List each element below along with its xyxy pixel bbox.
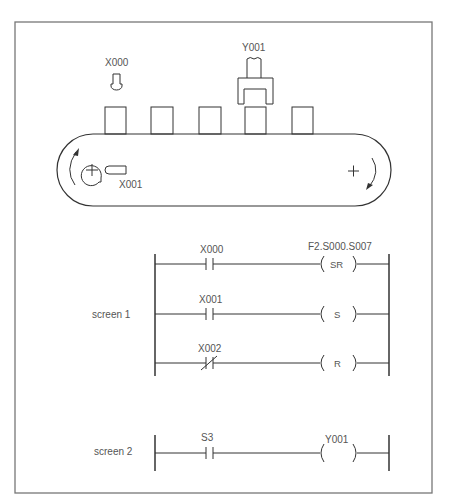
- sensor-x001-icon: [105, 166, 126, 174]
- rotation-arrow-left-icon: [70, 148, 79, 185]
- diagram-canvas: X000 Y001 X001 screen 1 X000: [0, 0, 449, 504]
- screen2-label: screen 2: [94, 446, 133, 457]
- rung1-coil-label: SR: [330, 259, 343, 270]
- right-roller-icon: [348, 166, 359, 177]
- coil-icon: [321, 355, 324, 371]
- rung1-contact-label: X000: [200, 244, 224, 255]
- conveyor-belt: [57, 134, 391, 206]
- rung-2: [155, 306, 389, 322]
- rung2-contact-label: X001: [199, 294, 223, 305]
- box: [151, 107, 173, 134]
- coil-icon: [321, 256, 324, 272]
- rung3-coil-label: R: [334, 358, 341, 369]
- coil-icon: [321, 306, 324, 322]
- screen2-contact-label: S3: [201, 432, 214, 443]
- box: [292, 107, 313, 134]
- box: [105, 107, 126, 134]
- sensor-x000-label: X000: [105, 57, 129, 68]
- rotation-arrow-right-icon: [366, 158, 376, 190]
- figure-frame: [15, 22, 432, 493]
- rung2-coil-label: S: [334, 309, 340, 320]
- screen1-label: screen 1: [92, 309, 131, 320]
- rung1-coil-header: F2.S000.S007: [308, 241, 372, 252]
- sensor-x001-label: X001: [119, 179, 143, 190]
- actuator-y001-label: Y001: [242, 42, 266, 53]
- box: [245, 107, 266, 134]
- actuator-y001-icon: [238, 58, 273, 105]
- coil-icon: [321, 444, 324, 462]
- screen2-rung: [155, 444, 389, 462]
- rung3-contact-label: X002: [198, 343, 222, 354]
- box: [199, 107, 221, 134]
- conveyor-boxes: [105, 107, 313, 134]
- screen2-coil-header: Y001: [325, 434, 349, 445]
- sensor-x000-icon: [111, 74, 122, 90]
- rung-3: [155, 355, 389, 371]
- rung-1: [155, 256, 389, 272]
